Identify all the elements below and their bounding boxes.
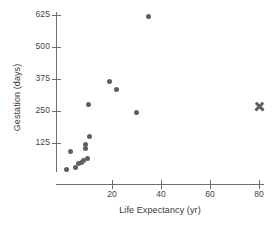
y-axis-title: Gestation (days) [12,28,23,168]
data-point [64,167,69,172]
data-point [134,110,139,115]
data-point [68,149,73,154]
x-axis-tick-label: 20 [97,189,127,199]
scatter-chart-figure: 625 500 375 250 125 20 40 60 80 Life Exp… [0,0,279,230]
data-point [146,14,151,19]
x-axis-tick-label: 80 [244,189,274,199]
data-point-x-marker [254,101,265,112]
y-axis-tick [52,143,61,144]
y-axis-tick [52,47,61,48]
y-axis-tick-label-wrap: 625 [14,10,50,19]
x-axis-tick-label: 60 [195,189,225,199]
x-axis-tick-label: 40 [146,189,176,199]
plot-area: 625 500 375 250 125 20 40 60 80 Life Exp… [0,0,279,230]
data-point [107,79,112,84]
y-axis-tick-label: 500 [20,42,50,51]
y-axis-tick [52,15,61,16]
y-axis-tick [52,79,61,80]
y-axis-line [56,12,57,172]
y-axis-tick-label: 625 [20,10,50,19]
data-point [86,102,91,107]
x-axis-tick [210,180,211,189]
x-axis-tick [112,180,113,189]
y-axis-tick-label: 250 [20,106,50,115]
y-axis-tick-label: 125 [20,138,50,147]
x-axis-tick [161,180,162,189]
data-point [83,142,88,147]
x-axis-title: Life Expectancy (yr) [56,205,264,216]
data-point [87,134,92,139]
y-axis-tick-label: 375 [20,74,50,83]
x-axis-line [56,184,264,185]
x-axis-tick [259,180,260,189]
data-point [85,156,90,161]
data-point [114,87,119,92]
y-axis-tick [52,111,61,112]
